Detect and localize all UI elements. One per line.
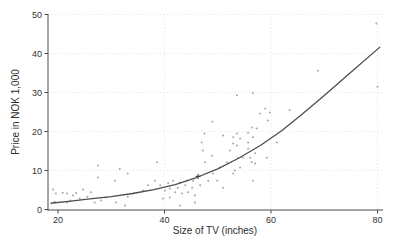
- scatter-point: [114, 180, 116, 182]
- scatter-point: [239, 138, 241, 140]
- scatter-point: [207, 180, 209, 182]
- scatter-point: [62, 192, 64, 194]
- scatter-point: [167, 182, 169, 184]
- scatter-point: [191, 187, 193, 189]
- scatter-point: [234, 170, 236, 172]
- scatter-point: [375, 22, 377, 24]
- scatter-point: [222, 187, 224, 189]
- scatter-point: [289, 109, 291, 111]
- scatter-point: [236, 94, 238, 96]
- plot-area: 0102030405020406080: [0, 0, 397, 251]
- scatter-point: [254, 152, 256, 154]
- scatter-point: [187, 191, 189, 193]
- scatter-point: [72, 194, 74, 196]
- scatter-point: [232, 173, 234, 175]
- scatter-point: [232, 143, 234, 145]
- y-tick-label: 0: [37, 205, 42, 215]
- y-axis-title: Price in NOK 1,000: [10, 69, 21, 155]
- scatter-point: [211, 121, 213, 123]
- scatter-point: [162, 198, 164, 200]
- y-tick-label: 10: [32, 166, 42, 176]
- scatter-point: [239, 166, 241, 168]
- scatter-point: [127, 196, 129, 198]
- y-tick-label: 50: [32, 10, 42, 20]
- scatter-point: [252, 136, 254, 138]
- scatter-point: [124, 205, 126, 207]
- scatter-point: [100, 200, 102, 202]
- y-tick-label: 40: [32, 49, 42, 59]
- scatter-point: [267, 120, 269, 122]
- scatter-point: [204, 161, 206, 163]
- scatter-point: [256, 127, 258, 129]
- scatter-point: [276, 141, 278, 143]
- scatter-point: [199, 184, 201, 186]
- scatter-point: [75, 192, 77, 194]
- scatter-point: [194, 194, 196, 196]
- scatter-point: [174, 191, 176, 193]
- y-tick-label: 20: [32, 127, 42, 137]
- scatter-point: [172, 180, 174, 182]
- scatter-point: [232, 136, 234, 138]
- scatter-point: [156, 161, 158, 163]
- scatter-point: [236, 132, 238, 134]
- scatter-point: [249, 157, 251, 159]
- scatter-point: [66, 193, 68, 195]
- scatter-point: [177, 187, 179, 189]
- scatter-point: [211, 155, 213, 157]
- scatter-point: [179, 205, 181, 207]
- scatter-point: [251, 127, 253, 129]
- scatter-point: [184, 184, 186, 186]
- scatter-point: [259, 113, 261, 115]
- scatter-point: [86, 196, 88, 198]
- scatter-point: [247, 132, 249, 134]
- x-tick-label: 80: [372, 215, 382, 225]
- scatter-point: [169, 187, 171, 189]
- scatter-point: [97, 177, 99, 179]
- scatter-point: [264, 107, 266, 109]
- scatter-point: [251, 161, 253, 163]
- scatter-point: [247, 141, 249, 143]
- scatter-point: [181, 193, 183, 195]
- scatter-point: [127, 173, 129, 175]
- scatter-point: [169, 196, 171, 198]
- scatter-point: [236, 145, 238, 147]
- scatter-point: [222, 134, 224, 136]
- scatter-point: [252, 180, 254, 182]
- scatter-point: [317, 70, 319, 72]
- scatter-point: [154, 180, 156, 182]
- scatter-point: [97, 164, 99, 166]
- scatter-point: [247, 148, 249, 150]
- x-tick-label: 20: [53, 215, 63, 225]
- scatter-point: [192, 180, 194, 182]
- scatter-point: [377, 86, 379, 88]
- scatter-point: [90, 191, 92, 193]
- scatter-point: [55, 193, 57, 195]
- scatter-point: [229, 150, 231, 152]
- x-tick-label: 60: [266, 215, 276, 225]
- scatter-point: [201, 141, 203, 143]
- scatter-point: [79, 198, 81, 200]
- tv-price-scatter-chart: 0102030405020406080 Size of TV (inches) …: [0, 0, 397, 251]
- scatter-point: [203, 132, 205, 134]
- scatter-point: [216, 180, 218, 182]
- trend-line: [51, 47, 381, 203]
- scatter-point: [115, 201, 117, 203]
- x-tick-label: 40: [159, 215, 169, 225]
- x-axis-title: Size of TV (inches): [173, 225, 257, 236]
- scatter-point: [147, 184, 149, 186]
- scatter-point: [252, 92, 254, 94]
- y-tick-label: 30: [32, 88, 42, 98]
- scatter-point: [94, 201, 96, 203]
- scatter-point: [82, 189, 84, 191]
- scatter-point: [164, 189, 166, 191]
- scatter-point: [159, 184, 161, 186]
- scatter-point: [212, 173, 214, 175]
- scatter-point: [269, 111, 271, 113]
- scatter-point: [226, 161, 228, 163]
- scatter-point: [202, 150, 204, 152]
- scatter-point: [254, 162, 256, 164]
- scatter-point: [52, 189, 54, 191]
- scatter-point: [266, 157, 268, 159]
- scatter-point: [119, 168, 121, 170]
- scatter-point: [194, 201, 196, 203]
